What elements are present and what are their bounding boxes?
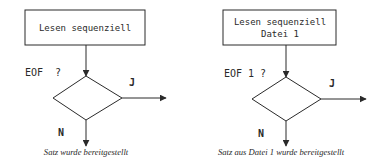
yes-label: J bbox=[129, 77, 135, 88]
decision-label: EOF ? bbox=[25, 67, 61, 78]
flowchart-sequential-read: Lesen sequenziell EOF ? J N Satz wurde b… bbox=[25, 10, 166, 157]
decision-label: EOF 1 ? bbox=[224, 68, 266, 79]
no-label: N bbox=[58, 127, 64, 138]
process-box-text: Lesen sequenziell bbox=[39, 23, 131, 33]
process-box-text-line1: Lesen sequenziell bbox=[234, 17, 326, 27]
no-label: N bbox=[258, 128, 264, 139]
flowchart-canvas: Lesen sequenziell EOF ? J N Satz wurde b… bbox=[0, 0, 382, 166]
decision-diamond bbox=[53, 76, 122, 120]
result-caption: Satz wurde bereitgestellt bbox=[44, 147, 129, 157]
result-caption: Satz aus Datei 1 wurde bereitgestellt bbox=[218, 147, 345, 157]
process-box bbox=[223, 10, 336, 45]
flowchart-sequential-read-file-1: Lesen sequenziell Datei 1 EOF 1 ? J N Sa… bbox=[218, 10, 366, 157]
decision-diamond bbox=[252, 77, 321, 121]
process-box-text-line2: Datei 1 bbox=[261, 29, 299, 39]
yes-label: J bbox=[329, 78, 335, 89]
